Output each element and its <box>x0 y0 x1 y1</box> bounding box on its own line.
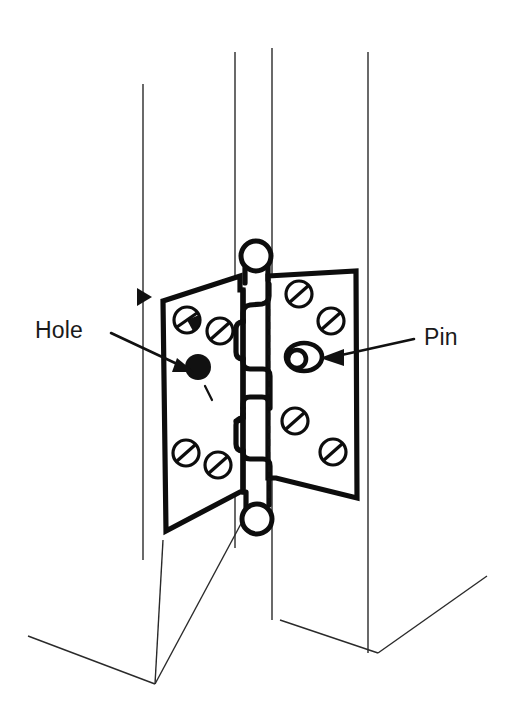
screw-left-3 <box>173 440 199 466</box>
screw-left-1 <box>174 307 200 333</box>
screw-right-3 <box>282 408 308 434</box>
direction-arrow-marker <box>137 288 152 306</box>
knuckle-bottom-finial <box>242 504 272 534</box>
knuckle-3 <box>243 397 269 408</box>
knuckle-1 <box>243 284 269 320</box>
pin-head-inner <box>288 350 306 368</box>
pin-label: Pin <box>424 324 458 350</box>
floor-line-left <box>28 636 155 684</box>
lower-perspective-edges <box>28 520 487 684</box>
door-face-converge <box>280 620 378 653</box>
figure-canvas: Hole Pin <box>0 0 510 712</box>
screw-left-4 <box>205 452 231 478</box>
jamb-face-left-converge <box>155 540 163 684</box>
arrowhead-frame-marker <box>137 288 152 306</box>
hinge-illustration: Hole Pin <box>0 0 510 712</box>
right-leaf-outline <box>268 271 357 498</box>
pin-feature <box>286 343 322 371</box>
hole-label: Hole <box>35 317 83 343</box>
screw-right-2 <box>318 308 344 334</box>
screw-left-2 <box>207 318 233 344</box>
screw-right-4 <box>320 439 346 465</box>
floor-line-right <box>378 576 487 653</box>
hole-filled-circle <box>185 354 211 380</box>
right-hinge-leaf <box>268 271 357 498</box>
jamb-reveal-left-converge <box>155 520 243 684</box>
screw-right-1 <box>286 281 312 307</box>
